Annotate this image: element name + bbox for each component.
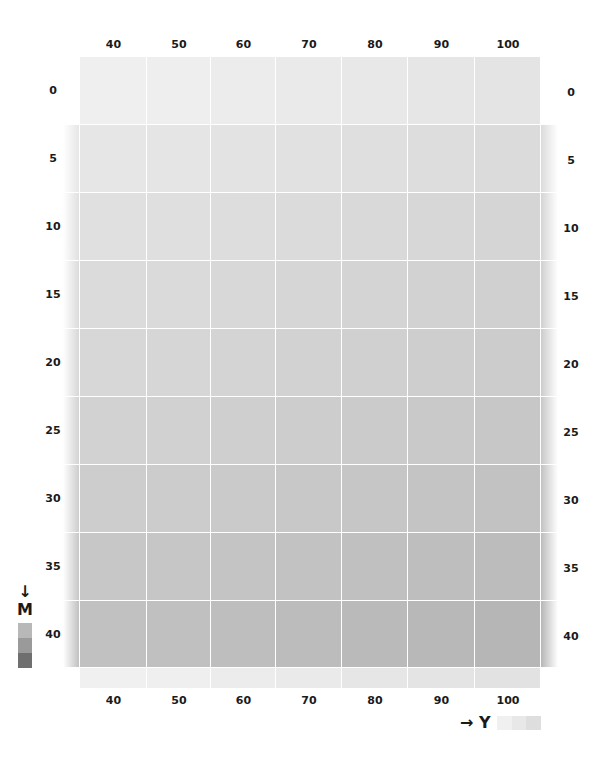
m-swatch-dark (18, 653, 32, 668)
color-patch (408, 261, 474, 328)
y-tick-label-right: 10 (556, 222, 586, 235)
y-tick-label-left: 5 (38, 152, 68, 165)
color-patch (408, 465, 474, 532)
color-patch (211, 397, 275, 464)
color-patch (276, 397, 341, 464)
color-patch (211, 329, 275, 396)
x-tick-label-top: 90 (422, 38, 462, 51)
color-patch (276, 125, 341, 192)
color-patch (147, 397, 210, 464)
color-patch (408, 601, 474, 667)
y-swatch-2 (512, 716, 527, 730)
color-patch (80, 601, 146, 667)
x-tick-label-bottom: 70 (289, 694, 329, 707)
color-patch (475, 261, 540, 328)
color-patch (276, 533, 341, 600)
color-patch (211, 193, 275, 260)
y-tick-label-left: 25 (38, 424, 68, 437)
m-axis-label: M (14, 601, 36, 619)
y-tick-label-left: 40 (38, 628, 68, 641)
color-patch (276, 601, 341, 667)
y-tick-label-right: 20 (556, 358, 586, 371)
color-patch (408, 329, 474, 396)
x-tick-label-bottom: 40 (94, 694, 134, 707)
color-patch (211, 261, 275, 328)
x-tick-label-bottom: 50 (159, 694, 199, 707)
color-patch (211, 125, 275, 192)
y-tick-label-right: 35 (556, 562, 586, 575)
bottom-strip-patch (475, 668, 540, 688)
color-patch (475, 193, 540, 260)
color-patch (80, 125, 146, 192)
color-patch (80, 397, 146, 464)
color-patch (342, 397, 407, 464)
bottom-strip-patch (80, 668, 146, 688)
color-patch (342, 57, 407, 124)
color-patch (276, 465, 341, 532)
color-patch (211, 465, 275, 532)
color-patch (211, 57, 275, 124)
y-axis-title: → Y (460, 714, 491, 732)
color-patch (475, 329, 540, 396)
y-swatch-3 (526, 716, 541, 730)
color-patch (276, 57, 341, 124)
x-tick-label-top: 100 (488, 38, 528, 51)
color-patch (147, 533, 210, 600)
color-patch (475, 533, 540, 600)
y-legend-swatch (497, 716, 541, 730)
x-tick-label-bottom: 100 (488, 694, 528, 707)
color-patch (276, 193, 341, 260)
color-patch (147, 329, 210, 396)
color-patch (276, 261, 341, 328)
color-patch (408, 57, 474, 124)
color-patch (80, 261, 146, 328)
y-tick-label-right: 40 (556, 630, 586, 643)
m-axis-title: ↓ M (14, 583, 36, 619)
bottom-strip-patch (276, 668, 341, 688)
y-swatch-1 (497, 716, 512, 730)
color-patch (408, 193, 474, 260)
y-tick-label-right: 5 (556, 154, 586, 167)
y-tick-label-left: 30 (38, 492, 68, 505)
arrow-down-icon: ↓ (14, 583, 36, 601)
x-tick-label-bottom: 80 (355, 694, 395, 707)
x-tick-label-top: 70 (289, 38, 329, 51)
x-tick-label-bottom: 60 (224, 694, 264, 707)
color-patch (475, 397, 540, 464)
color-patch (475, 125, 540, 192)
y-tick-label-left: 0 (38, 84, 68, 97)
m-swatch-mid (18, 638, 32, 653)
arrow-right-icon: → (460, 713, 473, 732)
color-patch (342, 125, 407, 192)
x-tick-label-top: 40 (94, 38, 134, 51)
bottom-strip-patch (408, 668, 474, 688)
y-tick-label-left: 35 (38, 560, 68, 573)
color-patch (147, 125, 210, 192)
m-swatch-light (18, 623, 32, 638)
color-patch (342, 601, 407, 667)
y-tick-label-left: 10 (38, 220, 68, 233)
color-patch (211, 601, 275, 667)
y-tick-label-left: 15 (38, 288, 68, 301)
x-tick-label-top: 80 (355, 38, 395, 51)
color-patch (80, 329, 146, 396)
color-patch (147, 465, 210, 532)
y-tick-label-right: 30 (556, 494, 586, 507)
color-patch (80, 193, 146, 260)
color-patch (342, 329, 407, 396)
color-patch (342, 465, 407, 532)
color-patch (408, 125, 474, 192)
color-patch (80, 57, 146, 124)
bottom-strip-patch (211, 668, 275, 688)
bottom-strip-patch (342, 668, 407, 688)
m-legend-swatch (18, 623, 32, 668)
y-tick-label-right: 25 (556, 426, 586, 439)
y-axis-label: Y (479, 713, 491, 732)
color-patch (80, 465, 146, 532)
color-patch (147, 601, 210, 667)
bottom-strip-patch (147, 668, 210, 688)
y-tick-label-left: 20 (38, 356, 68, 369)
color-patch (342, 193, 407, 260)
color-patch (211, 533, 275, 600)
color-patch (408, 397, 474, 464)
